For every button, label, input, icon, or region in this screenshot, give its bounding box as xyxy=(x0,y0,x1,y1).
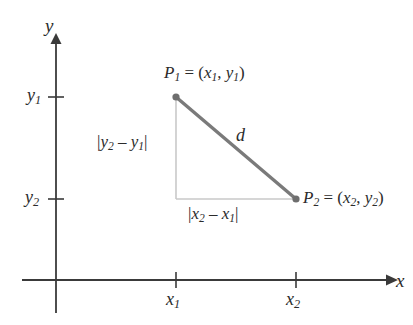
y-tick-label-y1-sub: 1 xyxy=(35,93,41,107)
y-axis-label-text: y xyxy=(45,15,53,36)
vertical-leg-first-base: y xyxy=(100,132,108,151)
distance-formula-figure: y x y1 y2 x1 x2 P1 = (x1, y1) P2 = (x2, … xyxy=(0,0,413,325)
point-p1-dot xyxy=(172,93,179,100)
point-p2-dot xyxy=(292,195,299,202)
point-p1-comma: , xyxy=(217,63,226,82)
y-axis-label: y xyxy=(45,16,53,35)
y-tick-label-y1: y1 xyxy=(27,86,41,104)
point-p2-comma: , xyxy=(356,188,365,207)
point-p2-close: ) xyxy=(378,188,384,207)
x-tick-label-x2: x2 xyxy=(286,290,300,308)
y-axis xyxy=(51,33,62,313)
point-p1-close: ) xyxy=(239,63,245,82)
x-axis-label-text: x xyxy=(396,270,404,291)
x-axis xyxy=(22,275,398,286)
x-tick-label-x1-sub: 1 xyxy=(174,297,180,311)
horizontal-leg-first-base: x xyxy=(191,204,199,223)
y-tick-label-y2-sub: 2 xyxy=(33,195,39,209)
hypotenuse-label: d xyxy=(236,126,245,144)
point-p1-name: P xyxy=(164,63,174,82)
figure-canvas xyxy=(0,0,413,325)
point-p2-name: P xyxy=(303,188,313,207)
x-tick-label-x2-sub: 2 xyxy=(294,297,300,311)
y-tick-label-y2-base: y xyxy=(25,187,33,207)
point-p2-label: P2 = (x2, y2) xyxy=(303,189,384,206)
x-axis-label: x xyxy=(396,271,404,290)
point-p1-equals: = ( xyxy=(180,63,204,82)
point-p2-equals: = ( xyxy=(319,188,343,207)
vertical-leg-operator: – xyxy=(114,132,131,151)
vertical-leg-label: |y2 – y1| xyxy=(97,133,147,150)
x-tick-label-x1: x1 xyxy=(166,290,180,308)
x-tick-label-x1-base: x xyxy=(166,289,174,309)
hypotenuse-label-text: d xyxy=(236,125,245,145)
hypotenuse-line xyxy=(176,97,296,199)
x-tick-label-x2-base: x xyxy=(286,289,294,309)
horizontal-leg-label: |x2 – x1| xyxy=(188,205,238,222)
y-tick-label-y2: y2 xyxy=(25,188,39,206)
vertical-leg-close-bar: | xyxy=(144,132,147,151)
y-tick-label-y1-base: y xyxy=(27,85,35,105)
horizontal-leg-close-bar: | xyxy=(235,204,238,223)
horizontal-leg-operator: – xyxy=(205,204,222,223)
point-p1-label: P1 = (x1, y1) xyxy=(164,64,245,81)
